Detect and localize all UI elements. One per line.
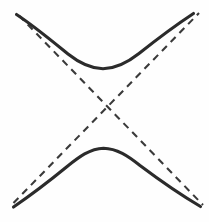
figure-canvas <box>0 0 209 222</box>
hyperbola-figure <box>0 0 209 222</box>
